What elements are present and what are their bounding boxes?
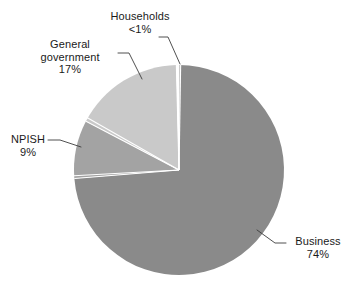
pie-label-general-government: General government 17% (22, 38, 118, 76)
leader-line-households (159, 37, 180, 64)
pie-label-households-percent: <1% (92, 23, 188, 36)
pie-label-households-name: Households (92, 10, 188, 23)
pie-label-business-percent: 74% (288, 248, 348, 261)
pie-label-households: Households <1% (92, 10, 188, 35)
pie-label-general-government-name-line1: General (22, 38, 118, 51)
pie-label-npish: NPISH 9% (6, 133, 50, 158)
pie-label-general-government-percent: 17% (22, 63, 118, 76)
pie-label-npish-percent: 9% (6, 146, 50, 159)
pie-label-general-government-name-line2: government (22, 51, 118, 64)
pie-label-npish-name: NPISH (6, 133, 50, 146)
leader-line-npish (48, 140, 81, 147)
pie-label-business-name: Business (288, 235, 348, 248)
pie-chart-figure: Households <1% General government 17% NP… (0, 0, 351, 294)
pie-label-business: Business 74% (288, 235, 348, 260)
